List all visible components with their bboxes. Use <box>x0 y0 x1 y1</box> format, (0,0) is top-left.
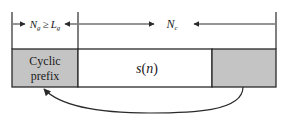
symbol-length-label: Nc <box>165 17 178 32</box>
cyclic-prefix-diagram: Ng≥Lg Nc Cyclic prefix s(n) <box>0 0 284 120</box>
cyclic-prefix-label-line2: prefix <box>31 69 60 83</box>
cyclic-prefix-label-line1: Cyclic <box>29 54 60 68</box>
copy-arrow-curve <box>44 87 243 113</box>
guard-length-label: Ng≥Lg <box>29 18 61 32</box>
tail-block <box>212 49 276 87</box>
signal-label: s(n) <box>136 61 158 77</box>
